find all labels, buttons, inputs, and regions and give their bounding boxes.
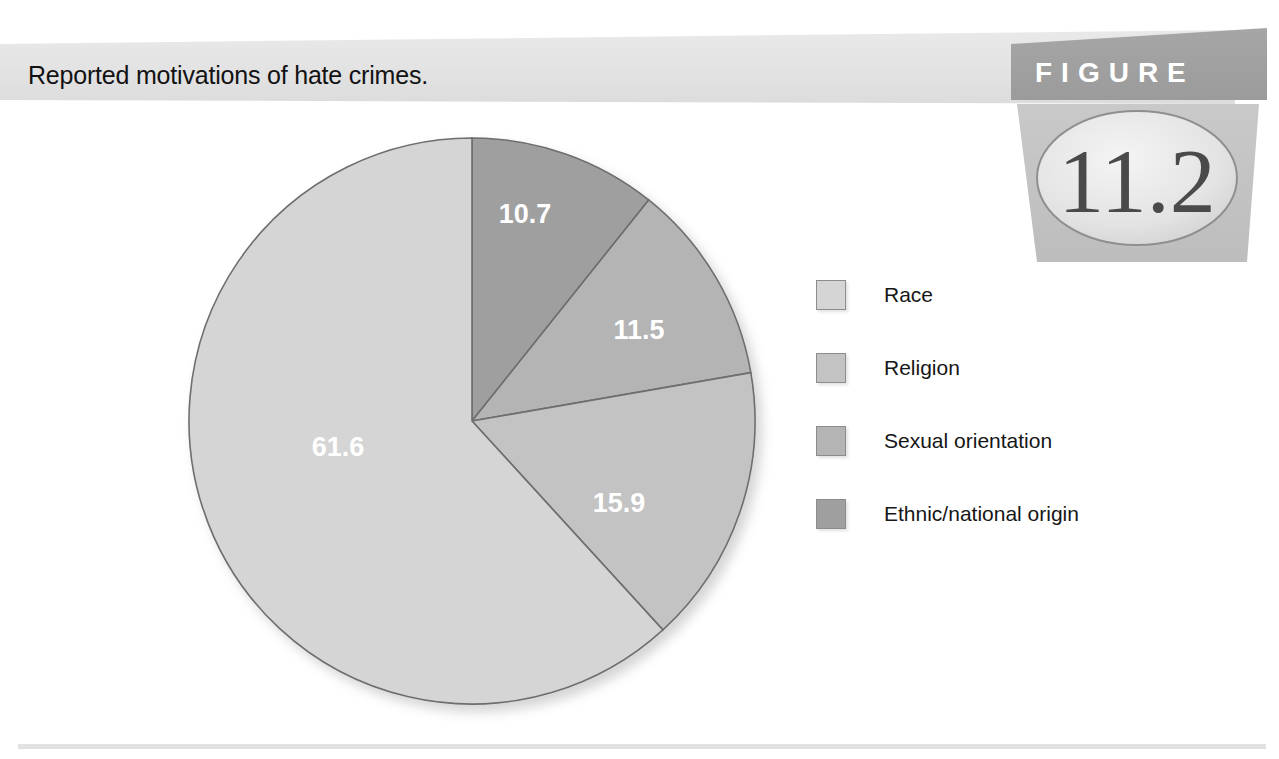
pie-slice-1 <box>472 200 751 421</box>
figure-badge: FIGURE 11.2 <box>995 26 1279 274</box>
pie-label-0: 10.7 <box>499 199 552 229</box>
legend-swatch-religion <box>816 353 846 383</box>
legend-label-ethnic-national-origin: Ethnic/national origin <box>884 502 1079 526</box>
legend-label-race: Race <box>884 283 933 307</box>
badge-number: 11.2 <box>1058 130 1216 232</box>
pie-label-3: 61.6 <box>312 432 365 462</box>
pie-slices <box>189 138 755 704</box>
legend-item-sexual-orientation: Sexual orientation <box>816 427 1236 455</box>
pie-value-labels: 10.7 11.5 15.9 61.6 <box>312 199 665 518</box>
pie-label-2: 15.9 <box>593 488 646 518</box>
pie-label-1: 11.5 <box>613 315 664 345</box>
legend-swatch-race <box>816 280 846 310</box>
pie-slice-3 <box>189 138 663 704</box>
badge-word: FIGURE <box>1035 57 1195 88</box>
legend-item-race: Race <box>816 281 1236 309</box>
legend-item-religion: Religion <box>816 354 1236 382</box>
legend-label-religion: Religion <box>884 356 960 380</box>
legend-item-ethnic-national-origin: Ethnic/national origin <box>816 500 1236 528</box>
chart-legend: Race Religion Sexual orientation Ethnic/… <box>816 281 1236 573</box>
legend-swatch-ethnic-national-origin <box>816 499 846 529</box>
legend-swatch-sexual-orientation <box>816 426 846 456</box>
pie-slice-0 <box>472 138 649 421</box>
footer-rule <box>18 744 1266 749</box>
page-title: Reported motivations of hate crimes. <box>28 61 428 90</box>
legend-label-sexual-orientation: Sexual orientation <box>884 429 1052 453</box>
pie-slice-2 <box>472 373 755 630</box>
